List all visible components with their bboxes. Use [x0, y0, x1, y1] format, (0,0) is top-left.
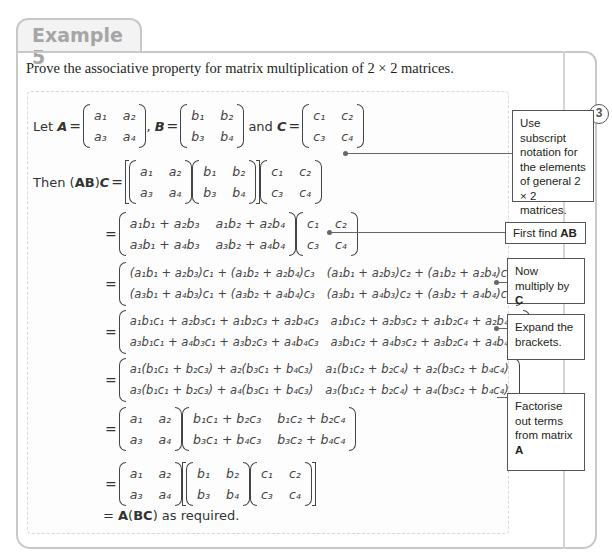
leader-dot — [327, 230, 332, 235]
matrix-cell: a₄ — [123, 128, 136, 145]
matrix-cell: a₄ — [169, 184, 182, 201]
equals-sign: = — [105, 276, 117, 292]
matrix-cell: c₂ — [335, 215, 347, 232]
matrix-cell: a₂ — [158, 465, 171, 482]
matrix-cell: a₃(b₁c₂ + b₂c₄) + a₄(b₃c₂ + b₄c₄) — [325, 382, 508, 399]
matrix-cell: c₃ — [271, 184, 283, 201]
bracket-ab: a₁ a₂ a₃ a₄ b₁ b₂ b₃ b₄ — [125, 160, 260, 204]
equals-sign: = — [105, 324, 117, 340]
matrix-cell: a₂ — [169, 163, 182, 180]
matrix-cell: b₃c₂ + b₄c₄ — [277, 431, 345, 448]
matrix-cell: a₃b₁c₁ + a₄b₃c₁ + a₃b₂c₃ + a₄b₄c₃ — [130, 334, 319, 351]
matrix-cell: a₁b₂ + a₂b₄ — [215, 215, 285, 232]
matrix-cell: a₃b₂ + a₄b₄ — [215, 236, 285, 253]
matrix-cell: b₃ — [191, 128, 204, 145]
note-multiply-c: Now multiply by C — [507, 258, 585, 304]
matrix-cell: b₂ — [220, 107, 233, 124]
bracket-bc: b₁ b₂ b₃ b₄ c₁ c₂ c₃ c₄ — [182, 462, 316, 506]
equals-sign: = — [105, 421, 117, 437]
note-first-find-ab: First find AB — [505, 222, 586, 244]
proof-line-1: Let A = a₁ a₂ a₃ a₄ , B = b₁ b₂ b₃ b₄ an… — [33, 104, 364, 148]
proof-conclusion: = A ( BC ) as required. — [103, 508, 239, 523]
note-text: First find — [513, 227, 560, 239]
matrix-cell: c₄ — [289, 486, 301, 503]
equals-sign: = — [111, 174, 123, 190]
equals-sign: = — [105, 476, 117, 492]
matrix-cell: a₃ — [140, 184, 153, 201]
matrix-c: c₁ c₂ c₃ c₄ — [302, 104, 364, 148]
matrix-cell: b₁ — [191, 107, 204, 124]
note-subscript: Use subscript notation for the elements … — [512, 110, 594, 202]
matrix-cell: a₁ — [130, 410, 143, 427]
comma: , — [146, 119, 150, 134]
matrix-cell: (a₁b₁ + a₂b₃)c₂ + (a₁b₂ + a₂b₄)c₄ — [327, 265, 512, 282]
matrix-cell: a₂ — [158, 410, 171, 427]
note-expand-brackets: Expand the brackets. — [507, 314, 585, 360]
leader-line — [330, 232, 526, 233]
problem-statement: Prove the associative property for matri… — [26, 60, 454, 77]
equals-sign: = — [69, 118, 81, 134]
equals-sign: = — [167, 118, 179, 134]
matrix-cell: a₃ — [130, 431, 143, 448]
equals-sign: = — [103, 508, 114, 523]
matrix-cell: a₁ — [130, 465, 143, 482]
then-label: Then — [33, 175, 65, 190]
note-bold: C — [515, 294, 523, 306]
matrix-cell: b₁ — [203, 163, 216, 180]
matrix-cell: c₄ — [335, 236, 347, 253]
equals-sign: = — [105, 372, 117, 388]
note-bold: A — [515, 444, 523, 456]
matrix-cell: c₁ — [271, 163, 283, 180]
matrix-cell: a₄ — [158, 431, 171, 448]
matrix-cell: b₄ — [220, 128, 233, 145]
proof-line-2: Then ( AB ) C = a₁ a₂ a₃ a₄ b₁ b₂ b₃ b₄ — [33, 160, 322, 204]
matrix-cell: a₁ — [94, 107, 107, 124]
proof-line-3: = a₁b₁ + a₂b₃ a₁b₂ + a₂b₄ a₃b₁ + a₄b₃ a₃… — [103, 212, 358, 256]
note-text: Now multiply by — [515, 265, 569, 292]
matrix-cell: c₁ — [261, 465, 273, 482]
note-bold: AB — [560, 227, 577, 239]
matrix-cell: (a₃b₁ + a₄b₃)c₂ + (a₃b₂ + a₄b₄)c₄ — [327, 286, 512, 303]
matrix-cell: a₃b₁ + a₄b₃ — [130, 236, 200, 253]
note-text: Use subscript notation for the elements … — [520, 117, 586, 216]
equals-sign: = — [289, 118, 301, 134]
matrix-cell: b₁c₁ + b₂c₃ — [193, 410, 261, 427]
note-factorise: Factorise out terms from matrix A — [507, 393, 585, 471]
matrix-c: c₁ c₂ c₃ c₄ — [260, 160, 322, 204]
matrix-cell: a₃(b₁c₁ + b₂c₃) + a₄(b₃c₁ + b₄c₃) — [130, 382, 313, 399]
matrix-cell: b₂ — [232, 163, 245, 180]
matrix-cell: a₁b₁c₂ + a₂b₃c₂ + a₁b₂c₄ + a₂b₄c₄ — [331, 313, 520, 330]
let-label: Let — [33, 119, 53, 134]
matrix-cell: a₁(b₁c₁ + b₂c₃) + a₂(b₃c₁ + b₄c₃) — [130, 361, 313, 378]
ab-label: AB — [75, 175, 95, 190]
and-label: and — [248, 119, 272, 134]
leader-dot — [494, 326, 499, 331]
matrix-cell: c₃ — [261, 486, 273, 503]
note-text: Factorise out terms from matrix — [515, 400, 573, 441]
matrix-cell: a₃b₁c₂ + a₄b₃c₂ + a₃b₂c₄ + a₄b₄c₄ — [331, 334, 520, 351]
paren-close: ) — [153, 508, 158, 523]
matrix-cell: (a₃b₁ + a₄b₃)c₁ + (a₃b₂ + a₄b₄)c₃ — [130, 286, 315, 303]
matrix-cell: b₄ — [226, 486, 239, 503]
matrix-cell: a₁b₁ + a₂b₃ — [130, 215, 200, 232]
matrix-cell: b₂ — [226, 465, 239, 482]
equals-sign: = — [105, 226, 117, 242]
matrix-cell: a₁(b₁c₂ + b₂c₄) + a₂(b₃c₂ + b₄c₄) — [325, 361, 508, 378]
matrix-a-name: A — [57, 119, 67, 134]
a-label: A — [118, 508, 128, 523]
matrix-cell: a₂ — [123, 107, 136, 124]
proof-line-8: = a₁ a₂ a₃ a₄ b₁ b₂ b₃ b₄ c₁ c₂ — [103, 462, 316, 506]
leader-dot — [343, 151, 348, 156]
matrix-a: a₁ a₂ a₃ a₄ — [119, 407, 182, 451]
bc-label: BC — [133, 508, 152, 523]
leader-dot — [494, 280, 499, 285]
matrix-cell: b₃ — [203, 184, 216, 201]
matrix-abc-product: (a₁b₁ + a₂b₃)c₁ + (a₁b₂ + a₂b₄)c₃ (a₁b₁ … — [119, 262, 523, 306]
proof-line-7: = a₁ a₂ a₃ a₄ b₁c₁ + b₂c₃ b₁c₂ + b₂c₄ b₃… — [103, 407, 356, 451]
leader-line — [346, 153, 512, 154]
matrix-cell: b₃ — [197, 486, 210, 503]
matrix-c-name: C — [277, 119, 287, 134]
matrix-cell: c₂ — [299, 163, 311, 180]
proof-line-6: = a₁(b₁c₁ + b₂c₃) + a₂(b₃c₁ + b₄c₃) a₁(b… — [103, 358, 520, 402]
matrix-b-name: B — [155, 119, 165, 134]
